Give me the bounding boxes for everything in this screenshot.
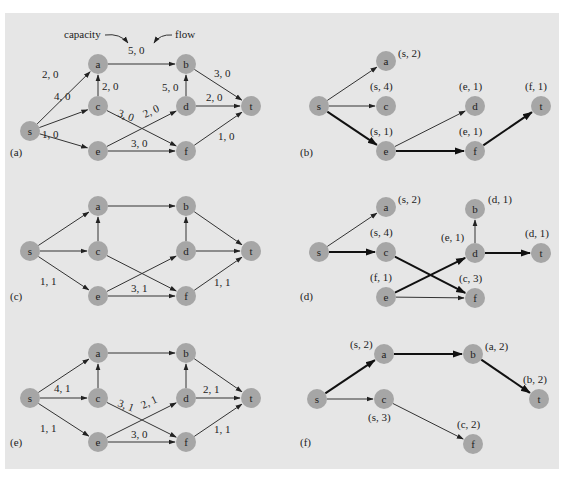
svg-text:t: t xyxy=(539,100,542,112)
node-label-e: (f, 1) xyxy=(370,271,392,284)
svg-text:a: a xyxy=(96,58,101,70)
svg-text:f: f xyxy=(471,438,475,450)
node-label-a: (s, 2) xyxy=(398,193,421,206)
svg-text:b: b xyxy=(470,348,476,360)
edge-c-f xyxy=(393,404,463,440)
svg-text:s: s xyxy=(315,393,319,405)
node-label-a: (s, 2) xyxy=(350,338,373,351)
edge-b-t xyxy=(194,212,242,245)
edge-label-b-t: 3, 0 xyxy=(214,67,231,79)
svg-text:c: c xyxy=(96,392,101,404)
node-label-c: (s, 3) xyxy=(368,411,391,424)
node-a: a xyxy=(376,51,396,71)
node-label-f: (c, 3) xyxy=(459,272,483,285)
svg-text:d: d xyxy=(183,245,189,257)
node-s: s xyxy=(20,121,40,141)
node-e: e xyxy=(88,141,108,161)
node-e: e xyxy=(376,141,396,161)
node-a: a xyxy=(376,197,396,217)
node-a: a xyxy=(88,343,108,363)
edge-label-e-d: 2, 0 xyxy=(141,102,161,120)
node-d: d xyxy=(465,243,485,263)
panel-label-e: (e) xyxy=(10,436,23,449)
node-d: d xyxy=(176,241,196,261)
node-s: s xyxy=(20,241,40,261)
edge-s-c xyxy=(39,110,87,128)
capacity-pointer-arrow xyxy=(105,35,128,43)
node-f: f xyxy=(463,434,483,454)
panel-label-f: (f) xyxy=(300,436,311,449)
node-c: c xyxy=(376,96,396,116)
svg-text:a: a xyxy=(384,55,389,67)
node-f: f xyxy=(465,288,485,308)
node-label-c: (s, 4) xyxy=(370,80,393,93)
svg-text:f: f xyxy=(184,290,188,302)
svg-text:e: e xyxy=(96,145,101,157)
edge-label-s-c: 4, 1 xyxy=(54,382,71,394)
edge-s-a xyxy=(38,212,88,245)
svg-text:f: f xyxy=(473,292,477,304)
edge-label-d-t: 2, 0 xyxy=(206,91,223,103)
panel-label-c: (c) xyxy=(10,290,23,303)
node-c: c xyxy=(88,388,108,408)
node-t: t xyxy=(241,96,261,116)
svg-text:c: c xyxy=(384,100,389,112)
node-s: s xyxy=(309,96,329,116)
svg-text:f: f xyxy=(473,145,477,157)
svg-text:e: e xyxy=(384,145,389,157)
svg-text:t: t xyxy=(537,393,540,405)
node-label-c: (s, 4) xyxy=(370,226,393,239)
svg-text:t: t xyxy=(249,100,252,112)
svg-text:d: d xyxy=(183,392,189,404)
svg-text:c: c xyxy=(384,246,389,258)
edge-label-c-f: 3, 1 xyxy=(116,397,136,414)
edge-label-e-f: 3, 1 xyxy=(131,282,148,294)
node-a: a xyxy=(374,344,394,364)
edge-label-e-d: 2, 1 xyxy=(139,393,159,411)
svg-text:s: s xyxy=(317,246,321,258)
node-e: e xyxy=(88,432,108,452)
edge-label-d-b: 5, 0 xyxy=(162,81,179,93)
node-c: c xyxy=(374,389,394,409)
node-d: d xyxy=(465,96,485,116)
node-t: t xyxy=(529,389,549,409)
svg-text:t: t xyxy=(249,392,252,404)
svg-text:a: a xyxy=(382,348,387,360)
node-label-f: (e, 1) xyxy=(459,125,483,138)
node-a: a xyxy=(88,196,108,216)
edge-label-s-e: 1, 1 xyxy=(40,275,57,287)
edge-e-d xyxy=(395,111,465,147)
node-c: c xyxy=(376,242,396,262)
node-f: f xyxy=(176,141,196,161)
node-f: f xyxy=(465,141,485,161)
capacity-label: capacity xyxy=(64,28,101,40)
svg-text:s: s xyxy=(28,125,32,137)
edge-label-s-e: 1, 0 xyxy=(42,128,59,140)
node-b: b xyxy=(463,344,483,364)
node-s: s xyxy=(307,389,327,409)
node-d: d xyxy=(176,388,196,408)
panel-label-d: (d) xyxy=(300,290,313,303)
svg-text:t: t xyxy=(249,245,252,257)
edge-label-s-a: 2, 0 xyxy=(42,68,59,80)
svg-text:b: b xyxy=(183,200,189,212)
edge-label-a-b: 5, 0 xyxy=(128,44,145,56)
node-d: d xyxy=(176,96,196,116)
node-label-e: (s, 1) xyxy=(370,125,393,138)
node-e: e xyxy=(376,287,396,307)
node-t: t xyxy=(531,243,551,263)
node-label-a: (s, 2) xyxy=(398,47,421,60)
node-c: c xyxy=(88,241,108,261)
svg-text:b: b xyxy=(183,347,189,359)
svg-text:e: e xyxy=(96,290,101,302)
panel-label-a: (a) xyxy=(10,146,23,159)
svg-text:c: c xyxy=(96,100,101,112)
node-a: a xyxy=(88,54,108,74)
capacity-flow-annotation: capacity flow xyxy=(64,28,195,43)
node-c: c xyxy=(88,96,108,116)
node-s: s xyxy=(20,388,40,408)
svg-text:b: b xyxy=(183,58,189,70)
node-f: f xyxy=(176,432,196,452)
edge-s-a xyxy=(325,360,375,393)
node-s: s xyxy=(309,242,329,262)
